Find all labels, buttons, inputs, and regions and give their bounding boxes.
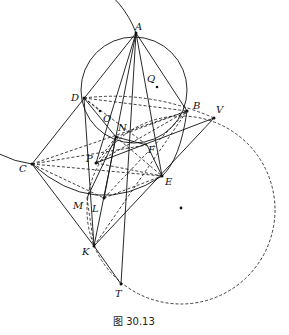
label-T: T [115, 288, 123, 299]
label-E: E [164, 176, 173, 187]
label-M: M [72, 200, 84, 211]
label-K: K [81, 246, 90, 257]
solid-lines [32, 33, 214, 284]
geometry-figure: A Q D O N B V F P C E M L K T 图 30.13 [0, 0, 289, 335]
label-C: C [19, 163, 27, 174]
label-B: B [192, 100, 200, 111]
label-L: L [91, 203, 99, 214]
label-F: F [147, 144, 156, 155]
label-P: P [85, 153, 93, 164]
label-Q: Q [147, 73, 155, 84]
label-A: A [134, 21, 142, 32]
label-V: V [216, 104, 225, 115]
label-D: D [70, 92, 79, 103]
figure-caption: 图 30.13 [113, 316, 155, 327]
label-O: O [103, 113, 111, 124]
label-N: N [117, 122, 128, 133]
